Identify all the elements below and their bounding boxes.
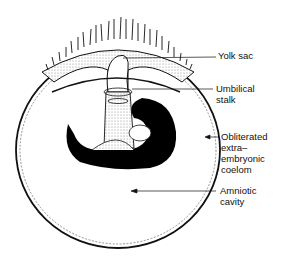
label-coelom-2: extra–: [221, 143, 247, 154]
label-umbilical-stalk-1: Umbilical: [216, 84, 255, 95]
label-coelom-3: embryonic: [221, 154, 265, 165]
label-coelom-4: coelom: [221, 165, 252, 176]
label-amniotic-cavity-2: cavity: [220, 197, 244, 208]
label-yolk-sac: Yolk sac: [218, 51, 253, 62]
yolk-sac: [42, 17, 194, 92]
label-coelom-1: Obliterated: [221, 132, 267, 143]
embryo-diagram: [0, 0, 285, 258]
label-amniotic-cavity-1: Amniotic: [220, 186, 256, 197]
umbilical-stalk: [104, 88, 134, 148]
label-umbilical-stalk-2: stalk: [216, 95, 236, 106]
